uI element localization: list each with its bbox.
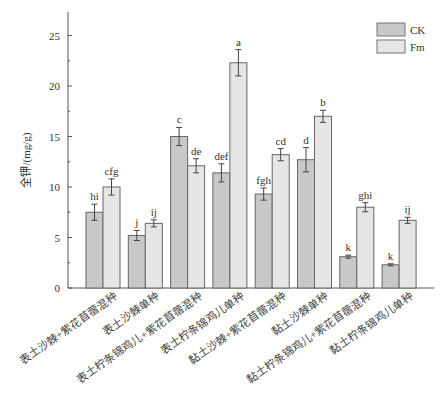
- bar-ck: [255, 194, 272, 288]
- y-axis-label: 全钾/(mg/g): [19, 132, 33, 187]
- bar-ck: [382, 265, 399, 288]
- y-tick-label: 5: [55, 232, 61, 244]
- significance-label: ij: [151, 206, 157, 218]
- y-tick-label: 10: [49, 181, 61, 193]
- bar-fm: [230, 63, 247, 288]
- y-tick-label: 25: [49, 30, 61, 42]
- significance-label: a: [236, 36, 241, 48]
- legend: CKFm: [377, 23, 425, 53]
- legend-label-ck: CK: [410, 24, 425, 36]
- significance-label: b: [320, 96, 326, 108]
- y-tick-label: 0: [55, 282, 61, 294]
- legend-swatch-ck: [377, 23, 405, 36]
- significance-label: c: [177, 113, 182, 125]
- legend-swatch-fm: [377, 40, 405, 53]
- significance-label: cd: [276, 135, 287, 147]
- bar-fm: [103, 187, 120, 288]
- significance-label: k: [388, 250, 394, 262]
- significance-label: de: [191, 145, 202, 157]
- y-tick-label: 20: [49, 80, 61, 92]
- bar-fm: [272, 155, 289, 288]
- significance-label: def: [214, 150, 228, 162]
- bar-fm: [315, 116, 332, 288]
- significance-label: k: [346, 241, 352, 253]
- category-labels: 表土沙棘+紫花苜蓿混种表土沙棘单种表土柠条锦鸡儿+紫花苜蓿混种表土柠条锦鸡儿单种…: [16, 289, 415, 385]
- significance-label: fgh: [256, 174, 271, 186]
- bar-ck: [213, 173, 230, 288]
- bars: [86, 50, 416, 288]
- significance-label: ghi: [358, 189, 372, 201]
- significance-label: hi: [90, 190, 99, 202]
- bar-fm: [357, 207, 374, 288]
- y-axis: 0510152025: [49, 12, 72, 294]
- bar-fm: [188, 166, 205, 288]
- bar-ck: [128, 235, 145, 288]
- significance-label: cfg: [104, 165, 119, 177]
- bar-fm: [399, 220, 416, 288]
- significance-label: d: [303, 134, 309, 146]
- y-tick-label: 15: [49, 131, 61, 143]
- bar-chart: 0510152025 hicfgjijcdedefafghcddbkghikij…: [0, 0, 446, 397]
- legend-label-fm: Fm: [410, 41, 425, 53]
- bar-ck: [171, 137, 188, 289]
- bar-ck: [340, 257, 357, 288]
- bar-fm: [145, 223, 162, 288]
- significance-label: ij: [405, 203, 411, 215]
- significance-label: j: [134, 216, 138, 228]
- bar-ck: [298, 160, 315, 288]
- bar-ck: [86, 212, 103, 288]
